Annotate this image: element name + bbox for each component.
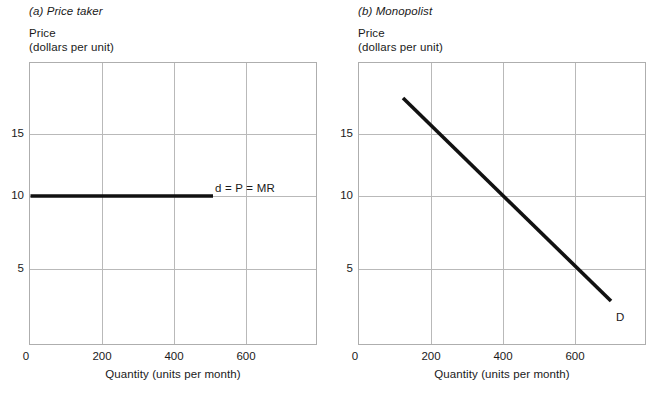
y-tick-label-15: 15 xyxy=(340,128,353,140)
panel-monopolist: (b) Monopolist Price (dollars per unit) … xyxy=(329,0,658,394)
x-tick-label-0: 0 xyxy=(23,351,29,363)
plot-area-monopolist: 15 10 5 0 200 400 600 D Quantity (units … xyxy=(358,62,646,345)
y-axis-title-line2: (dollars per unit) xyxy=(358,41,443,53)
y-tick-label-5: 5 xyxy=(347,263,353,275)
x-axis-label-monopolist: Quantity (units per month) xyxy=(434,368,570,380)
x-tick-label-200: 200 xyxy=(92,351,111,363)
x-tick-label-600: 600 xyxy=(236,351,255,363)
curve-label-demand: D xyxy=(616,312,624,324)
y-axis-title-line2: (dollars per unit) xyxy=(29,41,114,53)
plot-area-price-taker: 15 10 5 0 200 400 600 d = P = MR Quantit… xyxy=(29,62,317,345)
x-tick-label-200: 200 xyxy=(421,351,440,363)
y-tick-label-5: 5 xyxy=(18,263,24,275)
x-tick-label-400: 400 xyxy=(493,351,512,363)
x-tick-label-0: 0 xyxy=(352,351,358,363)
panel-price-taker: (a) Price taker Price (dollars per unit)… xyxy=(0,0,329,394)
curve-demand xyxy=(359,63,647,346)
panel-title-monopolist: (b) Monopolist xyxy=(358,5,432,17)
y-tick-label-10: 10 xyxy=(340,190,353,202)
curve-label-d-p-mr: d = P = MR xyxy=(215,183,275,195)
y-tick-label-10: 10 xyxy=(11,190,24,202)
x-tick-label-400: 400 xyxy=(164,351,183,363)
curve-d-p-mr xyxy=(30,63,318,346)
y-axis-title-line1: Price xyxy=(29,27,56,39)
x-axis-label-price-taker: Quantity (units per month) xyxy=(105,368,241,380)
y-axis-title-line1: Price xyxy=(358,27,385,39)
x-tick-label-600: 600 xyxy=(565,351,584,363)
y-tick-label-15: 15 xyxy=(11,128,24,140)
panel-title-price-taker: (a) Price taker xyxy=(29,5,103,17)
